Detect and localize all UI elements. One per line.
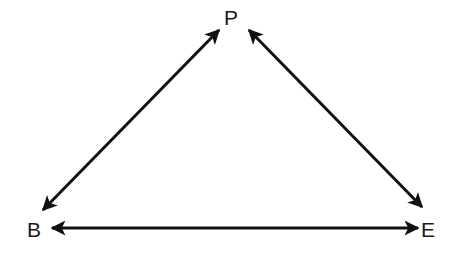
node-b-label: B [27,219,41,240]
edge-b-p-arrow [43,30,219,210]
diagram-canvas: P B E [0,0,459,257]
node-p-label: P [224,7,238,28]
node-e-label: E [421,219,435,240]
edges-layer [0,0,459,257]
edge-p-e-arrow [249,30,422,207]
